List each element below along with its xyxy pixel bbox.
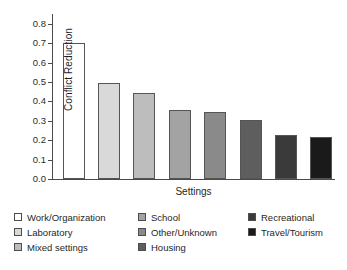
legend-swatch-icon [138,243,146,251]
bar [98,83,120,179]
legend-label: Travel/Tourism [261,227,323,238]
y-tick-mark [48,140,52,141]
legend-label: Laboratory [27,227,72,238]
y-tick-mark [48,101,52,102]
y-tick-mark [48,179,52,180]
y-tick-label: 0.0 [33,173,46,184]
y-axis-title: Conflict Reduction [63,10,74,130]
legend-label: Housing [151,242,186,253]
legend-item: Other/Unknown [138,225,217,239]
bar [169,110,191,179]
bar [133,93,155,179]
legend-column-1: Work/OrganizationLaboratoryMixed setting… [14,210,106,255]
legend-label: Other/Unknown [151,227,217,238]
bar [310,137,332,179]
legend-swatch-icon [248,213,256,221]
legend-swatch-icon [14,243,22,251]
y-tick-mark [48,160,52,161]
y-tick-mark [48,24,52,25]
y-tick-label: 0.1 [33,154,46,165]
x-axis-line [52,179,335,180]
y-axis-line [52,14,53,180]
legend-item: Laboratory [14,225,106,239]
bar-chart-figure: 0.00.10.20.30.40.50.60.70.8 Conflict Red… [0,0,347,270]
legend-column-3: RecreationalTravel/Tourism [248,210,323,240]
legend-item: Mixed settings [14,240,106,254]
y-tick-label: 0.2 [33,134,46,145]
y-tick-mark [48,63,52,64]
legend-label: Recreational [261,212,314,223]
legend-item: Recreational [248,210,323,224]
plot-area: 0.00.10.20.30.40.50.60.70.8 Conflict Red… [52,14,335,180]
y-tick-mark [48,82,52,83]
y-tick-label: 0.4 [33,95,46,106]
y-tick-label: 0.6 [33,57,46,68]
legend-item: School [138,210,217,224]
bar [275,135,297,179]
legend-swatch-icon [138,213,146,221]
bar [240,120,262,179]
legend-item: Work/Organization [14,210,106,224]
legend-swatch-icon [138,228,146,236]
legend-item: Housing [138,240,217,254]
legend-label: Mixed settings [27,242,88,253]
y-tick-label: 0.8 [33,18,46,29]
legend-swatch-icon [248,228,256,236]
y-tick-mark [48,121,52,122]
legend: Work/OrganizationLaboratoryMixed setting… [14,210,344,260]
x-axis-title: Settings [52,186,335,197]
legend-label: Work/Organization [27,212,106,223]
y-tick-label: 0.3 [33,115,46,126]
y-tick-mark [48,43,52,44]
y-tick-label: 0.5 [33,76,46,87]
legend-label: School [151,212,180,223]
y-tick-label: 0.7 [33,37,46,48]
legend-item: Travel/Tourism [248,225,323,239]
bar [204,112,226,179]
legend-column-2: SchoolOther/UnknownHousing [138,210,217,255]
legend-swatch-icon [14,228,22,236]
legend-swatch-icon [14,213,22,221]
